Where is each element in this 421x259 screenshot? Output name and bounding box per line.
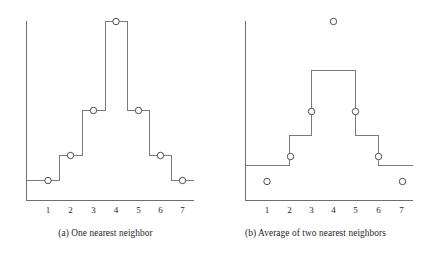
x-tick-b-7: 7 (399, 205, 404, 215)
x-tick-b-4: 4 (331, 205, 336, 215)
panel-average-two-nearest-neighbors: 1 2 3 4 5 6 7 (b) Average of two nearest… (210, 0, 421, 259)
data-point-a-2 (67, 152, 73, 158)
data-point-a-4 (113, 18, 119, 24)
data-point-b-2 (287, 153, 293, 159)
x-tick-a-1: 1 (46, 205, 51, 215)
data-point-b-3 (308, 108, 314, 114)
step-curve-b (246, 71, 413, 166)
data-point-a-6 (157, 152, 163, 158)
data-point-a-5 (135, 107, 141, 113)
x-tick-b-3: 3 (309, 205, 314, 215)
data-point-a-7 (179, 177, 185, 183)
caption-b: (b) Average of two nearest neighbors (210, 228, 421, 238)
caption-a: (a) One nearest neighbor (0, 228, 211, 238)
x-tick-a-2: 2 (68, 205, 73, 215)
x-tick-a-5: 5 (136, 205, 141, 215)
data-point-b-5 (352, 108, 358, 114)
panel-one-nearest-neighbor: 1 2 3 4 5 6 7 (a) One nearest neighbor (0, 0, 211, 259)
x-tick-a-3: 3 (91, 205, 96, 215)
data-point-a-3 (90, 107, 96, 113)
data-point-b-6 (375, 153, 381, 159)
data-point-a-1 (45, 177, 51, 183)
x-tick-a-4: 4 (114, 205, 119, 215)
x-tick-b-6: 6 (376, 205, 381, 215)
step-curve-a (27, 22, 194, 181)
x-tick-b-2: 2 (287, 205, 292, 215)
data-point-b-1 (264, 178, 270, 184)
data-point-b-7 (399, 178, 405, 184)
data-point-b-4 (330, 18, 336, 24)
x-tick-b-5: 5 (353, 205, 358, 215)
chart-a: 1 2 3 4 5 6 7 (0, 0, 211, 215)
chart-b: 1 2 3 4 5 6 7 (210, 0, 421, 215)
x-tick-b-1: 1 (265, 205, 270, 215)
figure-container: 1 2 3 4 5 6 7 (a) One nearest neighbor (0, 0, 421, 259)
x-tick-a-6: 6 (158, 205, 163, 215)
x-tick-a-7: 7 (180, 205, 185, 215)
